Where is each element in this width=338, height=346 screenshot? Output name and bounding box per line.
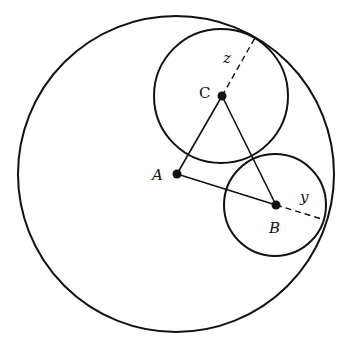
segment-bc (222, 96, 276, 205)
label-a: A (150, 166, 163, 184)
label-b: B (268, 219, 280, 237)
point-b-dot (272, 201, 281, 210)
label-z: z (222, 49, 231, 67)
segment-ab (177, 174, 276, 205)
radius-y-dashed (276, 205, 325, 220)
geometry-diagram: A B C z y (0, 0, 338, 346)
label-y: y (299, 188, 309, 206)
point-a-dot (173, 170, 182, 179)
label-c: C (199, 84, 210, 102)
point-c-dot (218, 92, 227, 101)
